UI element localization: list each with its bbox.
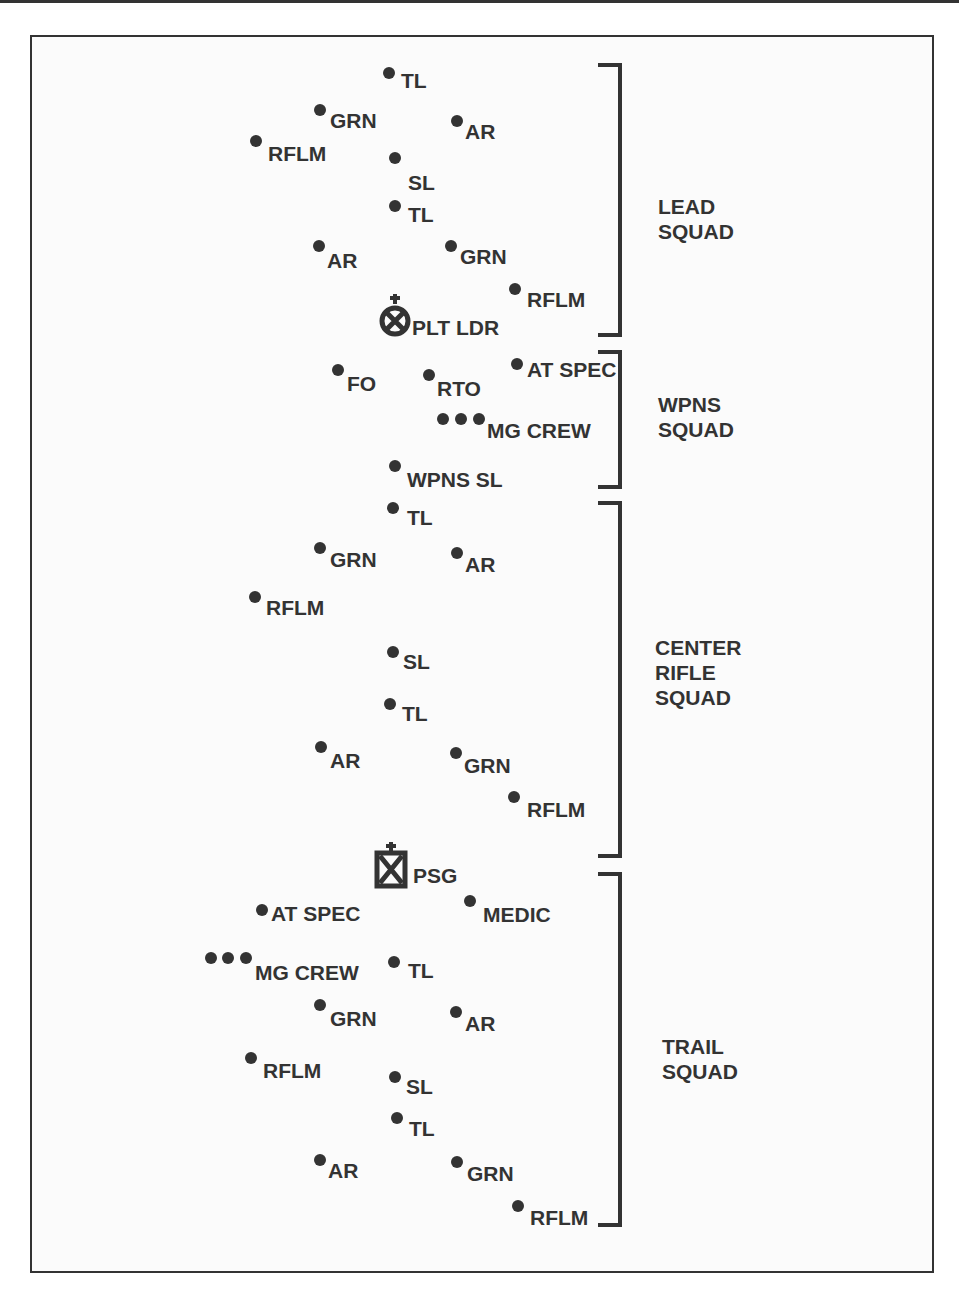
diagram-frame bbox=[30, 35, 934, 1273]
soldier-label: RFLM bbox=[266, 597, 324, 618]
squad-label-lead: LEAD SQUAD bbox=[658, 194, 734, 244]
soldier-dot-icon bbox=[511, 358, 523, 370]
soldier-label: TL bbox=[408, 204, 434, 225]
soldier-label: SL bbox=[406, 1076, 433, 1097]
soldier-dot-icon bbox=[383, 67, 395, 79]
squad-bracket-center bbox=[598, 501, 622, 858]
squad-label-center: CENTER RIFLE SQUAD bbox=[655, 635, 741, 710]
soldier-dot-icon bbox=[314, 1154, 326, 1166]
soldier-dot-icon bbox=[388, 956, 400, 968]
soldier-label: AR bbox=[465, 1013, 495, 1034]
soldier-label: RFLM bbox=[263, 1060, 321, 1081]
soldier-dot-icon bbox=[389, 152, 401, 164]
soldier-label: RTO bbox=[437, 378, 481, 399]
platoon-leader-icon bbox=[378, 292, 412, 342]
soldier-label: TL bbox=[407, 507, 433, 528]
soldier-label: GRN bbox=[467, 1163, 514, 1184]
soldier-dot-icon bbox=[391, 1112, 403, 1124]
squad-bracket-trail bbox=[598, 872, 622, 1227]
soldier-label: AR bbox=[465, 121, 495, 142]
squad-label-wpns: WPNS SQUAD bbox=[658, 392, 734, 442]
soldier-label: WPNS SL bbox=[407, 469, 503, 490]
soldier-label: AT SPEC bbox=[527, 359, 616, 380]
soldier-dot-icon bbox=[473, 413, 485, 425]
top-rule bbox=[0, 0, 959, 3]
soldier-label: GRN bbox=[460, 246, 507, 267]
leader-label: PLT LDR bbox=[412, 317, 499, 338]
soldier-label: GRN bbox=[330, 1008, 377, 1029]
soldier-label: AT SPEC bbox=[271, 903, 360, 924]
soldier-label: AR bbox=[327, 250, 357, 271]
soldier-label: MEDIC bbox=[483, 904, 551, 925]
leader-label: PSG bbox=[413, 865, 457, 886]
soldier-label: MG CREW bbox=[487, 420, 591, 441]
soldier-dot-icon bbox=[455, 413, 467, 425]
soldier-dot-icon bbox=[437, 413, 449, 425]
soldier-dot-icon bbox=[389, 200, 401, 212]
soldier-dot-icon bbox=[332, 364, 344, 376]
soldier-dot-icon bbox=[450, 747, 462, 759]
soldier-label: SL bbox=[403, 651, 430, 672]
soldier-dot-icon bbox=[314, 999, 326, 1011]
soldier-dot-icon bbox=[245, 1052, 257, 1064]
soldier-label: AR bbox=[465, 554, 495, 575]
soldier-label: FO bbox=[347, 373, 376, 394]
soldier-dot-icon bbox=[256, 904, 268, 916]
soldier-label: TL bbox=[402, 703, 428, 724]
soldier-label: RFLM bbox=[530, 1207, 588, 1228]
soldier-dot-icon bbox=[464, 895, 476, 907]
soldier-dot-icon bbox=[387, 502, 399, 514]
soldier-label: TL bbox=[408, 960, 434, 981]
soldier-label: GRN bbox=[464, 755, 511, 776]
squad-label-trail: TRAIL SQUAD bbox=[662, 1034, 738, 1084]
soldier-dot-icon bbox=[423, 369, 435, 381]
soldier-label: TL bbox=[401, 70, 427, 91]
soldier-dot-icon bbox=[240, 952, 252, 964]
soldier-label: SL bbox=[408, 172, 435, 193]
soldier-label: GRN bbox=[330, 549, 377, 570]
soldier-label: AR bbox=[330, 750, 360, 771]
soldier-label: RFLM bbox=[527, 289, 585, 310]
soldier-dot-icon bbox=[445, 240, 457, 252]
soldier-dot-icon bbox=[387, 646, 399, 658]
squad-bracket-lead bbox=[598, 63, 622, 337]
soldier-label: AR bbox=[328, 1160, 358, 1181]
soldier-dot-icon bbox=[512, 1200, 524, 1212]
soldier-dot-icon bbox=[451, 115, 463, 127]
soldier-dot-icon bbox=[389, 1071, 401, 1083]
soldier-dot-icon bbox=[250, 135, 262, 147]
soldier-label: RFLM bbox=[268, 143, 326, 164]
soldier-dot-icon bbox=[314, 104, 326, 116]
soldier-dot-icon bbox=[508, 791, 520, 803]
soldier-dot-icon bbox=[315, 741, 327, 753]
soldier-label: GRN bbox=[330, 110, 377, 131]
soldier-dot-icon bbox=[509, 283, 521, 295]
platoon-sergeant-icon bbox=[374, 840, 408, 894]
soldier-dot-icon bbox=[450, 1006, 462, 1018]
soldier-dot-icon bbox=[205, 952, 217, 964]
caption-area bbox=[0, 1278, 959, 1289]
soldier-dot-icon bbox=[451, 547, 463, 559]
soldier-label: MG CREW bbox=[255, 962, 359, 983]
soldier-dot-icon bbox=[314, 542, 326, 554]
soldier-dot-icon bbox=[249, 591, 261, 603]
soldier-label: RFLM bbox=[527, 799, 585, 820]
soldier-dot-icon bbox=[389, 460, 401, 472]
soldier-dot-icon bbox=[222, 952, 234, 964]
soldier-dot-icon bbox=[384, 698, 396, 710]
soldier-dot-icon bbox=[313, 240, 325, 252]
soldier-label: TL bbox=[409, 1118, 435, 1139]
soldier-dot-icon bbox=[451, 1156, 463, 1168]
